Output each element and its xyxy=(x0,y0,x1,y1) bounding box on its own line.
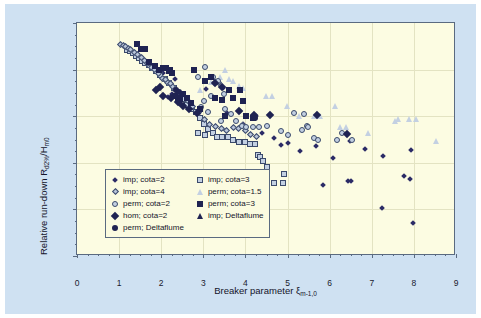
legend-item: imp; Deltaflume xyxy=(196,210,264,221)
marker-square-light-icon xyxy=(197,177,203,183)
marker-tri-light-icon xyxy=(332,103,338,109)
marker-square-navy-icon xyxy=(230,95,236,101)
marker-tri-light-icon xyxy=(284,103,290,109)
data-point xyxy=(284,103,290,109)
legend-marker xyxy=(111,212,119,220)
marker-circle-light-icon xyxy=(202,64,208,70)
x-tick-minor xyxy=(424,254,425,256)
data-point xyxy=(222,67,228,73)
y-tick-major xyxy=(73,70,77,71)
x-tick-minor xyxy=(435,254,436,256)
marker-circle-navy-icon xyxy=(176,89,182,95)
marker-circle-light-icon xyxy=(278,128,284,134)
data-point xyxy=(288,143,292,147)
y-tick-minor xyxy=(75,128,77,129)
marker-tri-light-icon xyxy=(197,189,203,195)
data-point xyxy=(197,113,203,119)
y-tick-minor xyxy=(75,151,77,152)
x-tick-minor xyxy=(393,254,394,256)
marker-diamond-light-icon xyxy=(111,188,118,195)
marker-circle-navy-icon xyxy=(252,115,258,121)
data-point xyxy=(202,132,208,138)
data-point xyxy=(142,46,148,52)
data-point xyxy=(156,90,162,96)
y-tick-major xyxy=(73,209,77,210)
y-tick-major xyxy=(73,23,77,24)
y-tick-minor xyxy=(75,46,77,47)
legend-marker xyxy=(196,200,204,208)
data-point xyxy=(222,87,228,93)
marker-square-light-icon xyxy=(230,137,236,143)
marker-tri-light-icon xyxy=(197,87,203,93)
y-tick-minor xyxy=(75,81,77,82)
x-axis-title-sub: m-1,0 xyxy=(300,290,317,297)
data-point xyxy=(395,116,401,122)
x-tick-minor xyxy=(298,254,299,256)
marker-tri-light-icon xyxy=(406,116,412,122)
data-point xyxy=(332,103,338,109)
legend-item: perm; cota=1.5 xyxy=(196,186,264,197)
x-tick-minor xyxy=(445,254,446,256)
legend-marker xyxy=(111,176,119,184)
marker-diamond-navy-icon xyxy=(172,76,178,82)
data-point xyxy=(406,116,412,122)
marker-square-navy-icon xyxy=(197,201,203,207)
x-tick-minor xyxy=(403,254,404,256)
y-tick-minor xyxy=(75,221,77,222)
marker-square-navy-icon xyxy=(240,98,246,104)
chart-figure: Relative run-down Rd2%/Hm0 Breaker param… xyxy=(5,4,476,314)
data-point xyxy=(176,89,182,95)
x-tick-label: 3 xyxy=(201,278,206,288)
x-tick-minor xyxy=(309,254,310,256)
marker-square-light-icon xyxy=(280,180,286,186)
data-point xyxy=(323,185,327,189)
data-point xyxy=(291,110,297,116)
x-tick-label: 8 xyxy=(412,278,417,288)
x-tick-minor xyxy=(130,254,131,256)
data-point xyxy=(264,123,270,129)
marker-square-light-icon xyxy=(195,130,201,136)
data-point xyxy=(347,134,353,140)
data-point xyxy=(433,138,439,144)
x-axis-title: Breaker parameter ξm-1,0 xyxy=(76,285,455,297)
y-axis-title-sub1: d2% xyxy=(43,156,50,169)
legend-label: imp; cota=3 xyxy=(208,175,250,184)
marker-circle-light-icon xyxy=(264,123,270,129)
y-axis-title-mid: /H xyxy=(38,146,49,156)
x-tick-major xyxy=(288,254,289,258)
y-tick-minor xyxy=(75,233,77,234)
data-point xyxy=(285,132,291,138)
legend-label: perm; cota=2 xyxy=(123,199,170,208)
x-tick-major xyxy=(203,254,204,258)
y-tick-minor xyxy=(75,140,77,141)
marker-diamond-navy-icon xyxy=(297,149,303,155)
x-tick-minor xyxy=(214,254,215,256)
marker-square-light-icon xyxy=(202,132,208,138)
data-point xyxy=(278,128,284,134)
marker-square-light-icon xyxy=(271,180,277,186)
gridline-vertical xyxy=(288,23,289,254)
y-tick-minor xyxy=(75,174,77,175)
x-tick-minor xyxy=(193,254,194,256)
data-point xyxy=(316,146,320,150)
marker-circle-light-icon xyxy=(112,201,118,207)
marker-diamond-light-icon xyxy=(223,127,230,134)
data-point xyxy=(212,95,218,101)
marker-square-navy-icon xyxy=(191,67,197,73)
marker-square-navy-icon xyxy=(167,67,173,73)
marker-diamond-navy-icon xyxy=(285,140,291,146)
marker-circle-light-icon xyxy=(301,111,307,117)
marker-square-navy-icon xyxy=(212,95,218,101)
x-tick-minor xyxy=(235,254,236,256)
marker-tri-light-icon xyxy=(395,116,401,122)
data-point xyxy=(333,158,337,162)
x-tick-label: 5 xyxy=(285,278,290,288)
x-tick-minor xyxy=(224,254,225,256)
data-point xyxy=(227,130,232,135)
y-tick-minor xyxy=(75,105,77,106)
marker-diamond-navy-icon xyxy=(204,86,210,92)
data-point xyxy=(382,208,386,212)
data-point xyxy=(252,115,258,121)
data-point xyxy=(365,130,371,136)
y-tick-major xyxy=(73,256,77,257)
